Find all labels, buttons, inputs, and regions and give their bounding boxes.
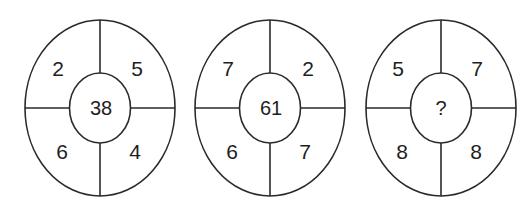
figure-3-drawing [0, 0, 530, 202]
figure-3-bottom-right-number: 8 [470, 141, 482, 162]
figure-3-center-unknown: ? [435, 98, 446, 118]
number-puzzle: 2 5 6 4 38 7 2 6 7 61 5 7 8 8 ? [0, 0, 530, 202]
figure-3-bottom-left-number: 8 [396, 141, 408, 162]
figure-3-top-right-number: 7 [471, 58, 483, 79]
figure-3-top-left-number: 5 [392, 58, 404, 79]
